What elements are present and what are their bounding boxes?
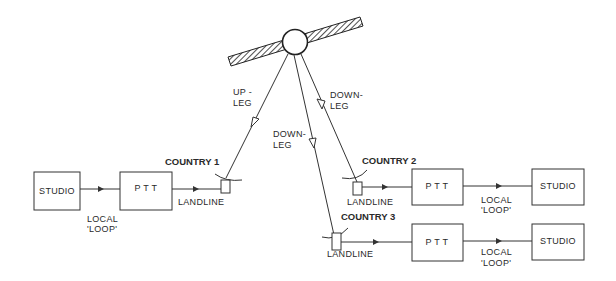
country-3-studio-label: STUDIO bbox=[540, 236, 576, 246]
country-1-ptt-label: P T T bbox=[135, 183, 158, 193]
country-2-local-loop-arrow-icon bbox=[496, 183, 502, 189]
country-3-ptt-label: P T T bbox=[426, 237, 449, 247]
up-leg-label: UP - bbox=[233, 87, 252, 97]
country-2-earth-station-icon bbox=[353, 182, 362, 195]
country-2-landline-arrow-icon bbox=[382, 184, 388, 190]
country-2-local-loop-label: LOCAL bbox=[481, 195, 512, 205]
country-3-landline-arrow-icon bbox=[373, 239, 379, 245]
country-3-local-loop-label: LOCAL bbox=[481, 247, 512, 257]
country-3-label: COUNTRY 3 bbox=[341, 211, 395, 222]
country-1-label: COUNTRY 1 bbox=[165, 156, 220, 167]
country-1-landline-arrow-icon bbox=[193, 186, 199, 192]
up-leg-arrow-icon bbox=[251, 117, 259, 127]
country-1-earth-station-icon bbox=[221, 180, 230, 193]
down-leg-1-arrow-icon bbox=[317, 99, 325, 109]
country-3-local-loop-arrow-icon bbox=[496, 238, 502, 244]
up-leg-label-2: LEG bbox=[233, 98, 252, 108]
satellite-link-diagram: UP - LEG DOWN- LEG DOWN- LEG STUDIO LOCA… bbox=[0, 0, 616, 281]
country-2-studio-label: STUDIO bbox=[540, 181, 576, 191]
country-3-group: COUNTRY 3 LANDLINE P T T LOCAL 'LOOP' ST… bbox=[322, 211, 584, 268]
country-3-local-loop-label-2: 'LOOP' bbox=[481, 258, 511, 268]
down-leg-1-label-2: LEG bbox=[330, 101, 349, 111]
country-1-local-loop-arrow-icon bbox=[98, 186, 104, 192]
country-1-dish-icon bbox=[215, 174, 242, 180]
down-leg-2-path bbox=[294, 55, 336, 244]
country-3-earth-station-icon bbox=[332, 233, 341, 250]
country-1-group: STUDIO LOCAL 'LOOP' P T T LANDLINE COUNT… bbox=[34, 156, 242, 234]
country-1-landline-label: LANDLINE bbox=[178, 197, 224, 207]
satellite-icon bbox=[228, 17, 363, 66]
country-1-local-loop-label-2: 'LOOP' bbox=[87, 224, 117, 234]
down-leg-2-arrow-icon bbox=[309, 138, 316, 148]
down-leg-2-label-2: LEG bbox=[273, 140, 292, 150]
down-leg-2-label: DOWN- bbox=[273, 129, 306, 139]
down-leg-1-path bbox=[301, 54, 357, 182]
country-2-landline-label: LANDLINE bbox=[347, 197, 393, 207]
down-leg-1-label: DOWN- bbox=[330, 90, 363, 100]
country-1-local-loop-label: LOCAL bbox=[87, 214, 118, 224]
country-2-group: COUNTRY 2 LANDLINE P T T LOCAL 'LOOP' ST… bbox=[342, 155, 584, 215]
country-2-label: COUNTRY 2 bbox=[362, 155, 416, 166]
up-leg-path bbox=[226, 54, 288, 178]
country-2-ptt-label: P T T bbox=[426, 181, 449, 191]
country-1-studio-label: STUDIO bbox=[39, 186, 75, 196]
country-2-local-loop-label-2: 'LOOP' bbox=[481, 205, 511, 215]
country-3-landline-label: LANDLINE bbox=[327, 249, 373, 259]
